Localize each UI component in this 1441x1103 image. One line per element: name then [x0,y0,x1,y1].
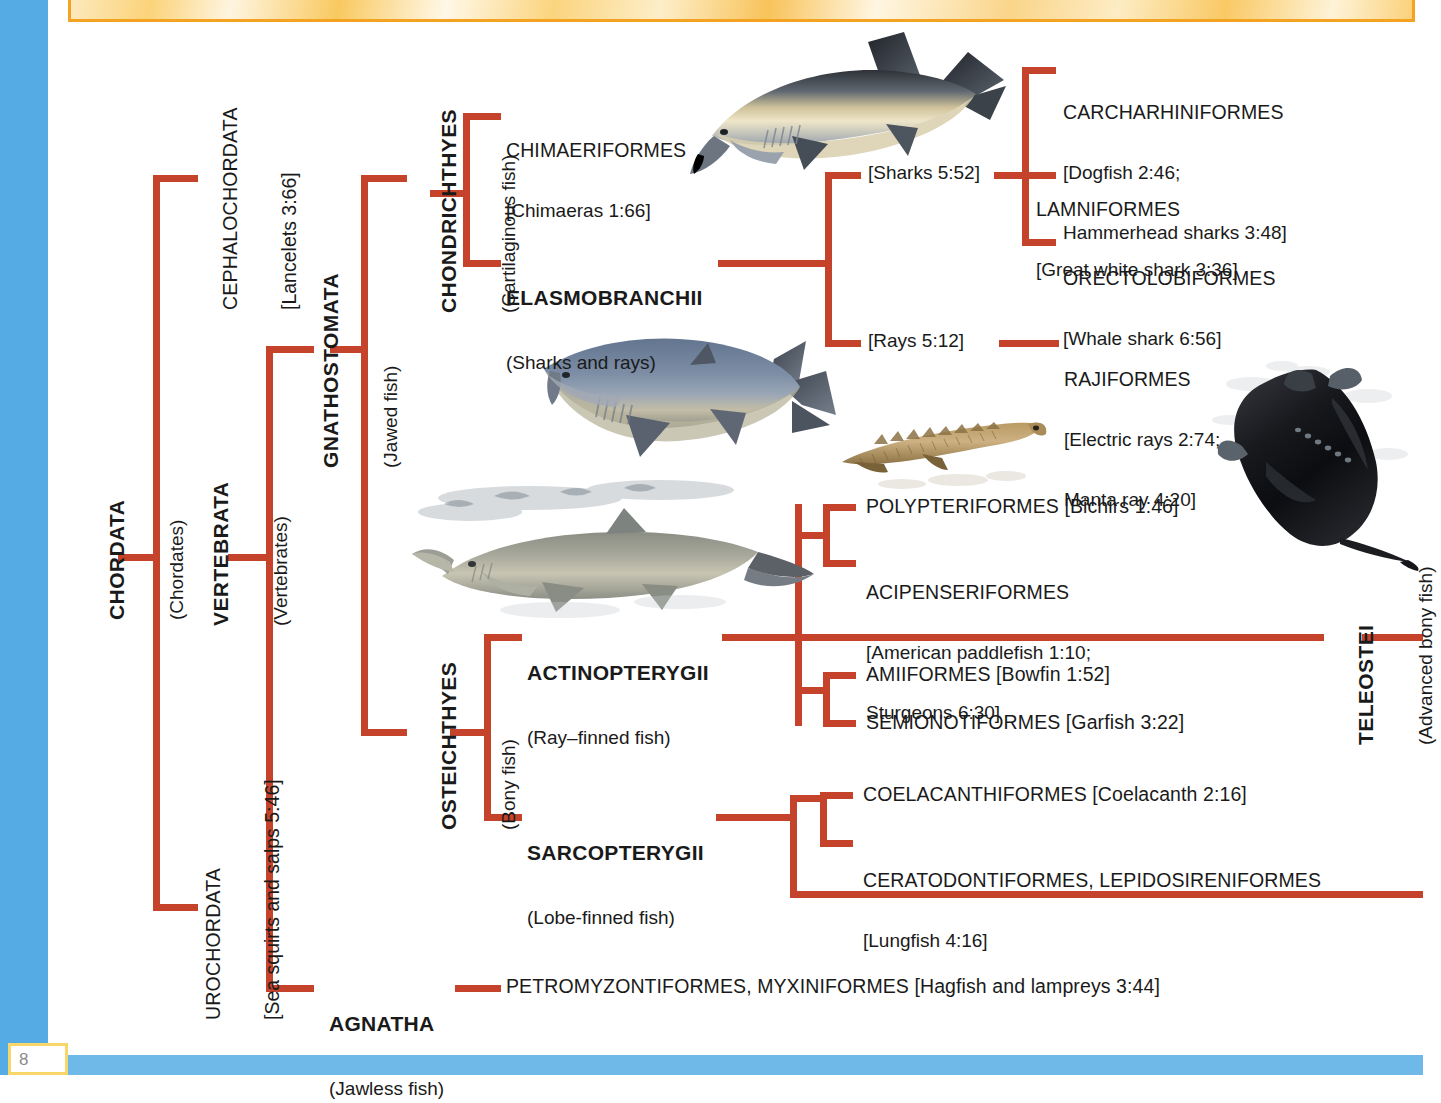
connector-to-semionotiformes [823,720,856,727]
connector-agnatha-order [455,985,501,992]
connector-to-ceratodontiformes [820,840,853,847]
order-chimaeriformes: CHIMAERIFORMES [Chimaeras 1:66] [506,101,686,260]
connector-sarco-cross [790,795,823,802]
order-rajiformes-name: RAJIFORMES [1064,368,1220,391]
order-amiiformes: AMIIFORMES [Bowfin 1:52] [866,663,1110,686]
connector-to-coelacanthiformes [820,792,853,799]
taxon-vertebrata-name: VERTEBRATA [209,482,233,626]
group-rays: [Rays 5:12] [868,330,964,352]
order-acipenseriformes-name: ACIPENSERIFORMES [866,581,1091,604]
taxon-elasmobranchii-common: (Sharks and rays) [506,352,703,374]
left-blue-margin [0,0,48,1032]
order-orectolobiformes-name: ORECTOLOBIFORMES [1063,267,1276,290]
tiger-shark-photo [672,24,1012,234]
taxon-urochordata: UROCHORDATA [Sea squirts and salps 5:46] [165,779,320,1020]
taxon-gnathostomata-name: GNATHOSTOMATA [319,273,343,468]
order-acipenseriformes-line1: [American paddlefish 1:10; [866,642,1091,664]
taxon-sarcopterygii-name: SARCOPTERYGII [527,841,704,866]
taxon-vertebrata: VERTEBRATA (Vertebrates) [172,482,328,626]
bichir-photo [830,400,1050,495]
taxon-urochordata-detail: [Sea squirts and salps 5:46] [261,779,283,1020]
taxon-chondrichthyes-name: CHONDRICHTHYES [437,109,461,313]
taxon-agnatha-name: AGNATHA [329,1012,444,1037]
connector-actino-lower-spine [823,672,830,727]
connector-elasmobranchii-stub [718,260,828,267]
order-carcharhiniformes-name: CARCHARHINIFORMES [1063,101,1287,124]
taxon-osteichthyes-name: OSTEICHTHYES [437,662,461,830]
american-paddlefish-photo [410,470,830,635]
taxon-sarcopterygii: SARCOPTERYGII (Lobe-finned fish) [527,803,704,967]
taxon-teleostei: TELEOSTEI (Advanced bony fish) [1317,567,1441,746]
connector-to-rajiformes [999,340,1059,347]
order-ceratodontiformes-name: CERATODONTIFORMES, LEPIDOSIRENIFORMES [863,869,1321,892]
bottom-blue-band [68,1055,1423,1075]
taxon-vertebrata-common: (Vertebrates) [270,482,292,626]
taxon-elasmobranchii-name: ELASMOBRANCHII [506,286,703,311]
order-rajiformes-line1: [Electric rays 2:74; [1064,429,1220,451]
taxon-actinopterygii-name: ACTINOPTERYGII [527,661,709,686]
taxon-actinopterygii-common: (Ray–finned fish) [527,727,709,749]
page-number: 8 [19,1050,28,1070]
order-chimaeriformes-name: CHIMAERIFORMES [506,139,686,162]
taxon-actinopterygii: ACTINOPTERYGII (Ray–finned fish) [527,623,709,787]
page-number-box: 8 [8,1043,68,1075]
taxon-teleostei-common: (Advanced bony fish) [1415,567,1437,746]
taxon-agnatha: AGNATHA (Jawless fish) [329,974,444,1103]
group-sharks: [Sharks 5:52] [868,162,980,184]
taxon-urochordata-name: UROCHORDATA [202,779,224,1020]
connector-to-amiiformes [823,672,856,679]
taxon-elasmobranchii: ELASMOBRANCHII (Sharks and rays) [506,248,703,412]
connector-to-actinopterygii [484,634,522,641]
taxon-teleostei-name: TELEOSTEI [1354,567,1378,746]
order-lamniformes-name: LAMNIFORMES [1036,198,1238,221]
connector-sharks-spine [1022,67,1029,246]
order-ceratodontiformes: CERATODONTIFORMES, LEPIDOSIRENIFORMES [L… [863,831,1321,990]
order-petromyzontiformes: PETROMYZONTIFORMES, MYXINIFORMES [Hagfis… [506,975,1160,998]
order-chimaeriformes-detail: [Chimaeras 1:66] [506,200,686,222]
order-semionotiformes: SEMIONOTIFORMES [Garfish 3:22] [866,711,1184,734]
order-coelacanthiformes: COELACANTHIFORMES [Coelacanth 2:16] [863,783,1247,806]
taxon-chordata-name: CHORDATA [105,500,129,620]
order-polypteriformes: POLYPTERIFORMES [Bichirs 1:46] [866,495,1179,518]
order-ceratodontiformes-detail: [Lungfish 4:16] [863,930,1321,952]
taxon-osteichthyes-common: (Bony fish) [498,662,520,830]
connector-sarcopterygii-stub [716,814,796,821]
connector-sarcopterygii-spine [790,795,797,898]
connector-to-carcharhiniformes [1022,67,1056,74]
taxon-agnatha-common: (Jawless fish) [329,1078,444,1100]
connector-sarco-sub-spine [820,792,827,847]
taxon-cephalochordata-name: CEPHALOCHORDATA [219,107,241,310]
top-gold-banner [68,0,1415,22]
taxon-gnathostomata-common: (Jawed fish) [380,273,402,468]
taxon-sarcopterygii-common: (Lobe-finned fish) [527,907,704,929]
manta-ray-photo [1212,358,1422,573]
